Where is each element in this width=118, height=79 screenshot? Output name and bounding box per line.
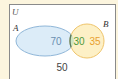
universe-label: U (12, 7, 19, 17)
venn-diagram: U A B 70 30 35 50 (0, 0, 118, 79)
intersection-value: 30 (73, 36, 85, 47)
a-only-value: 70 (50, 36, 62, 47)
outside-value: 50 (56, 62, 68, 73)
b-only-value: 35 (89, 36, 101, 47)
set-b-label: B (103, 19, 109, 29)
set-a-label: A (12, 23, 19, 33)
